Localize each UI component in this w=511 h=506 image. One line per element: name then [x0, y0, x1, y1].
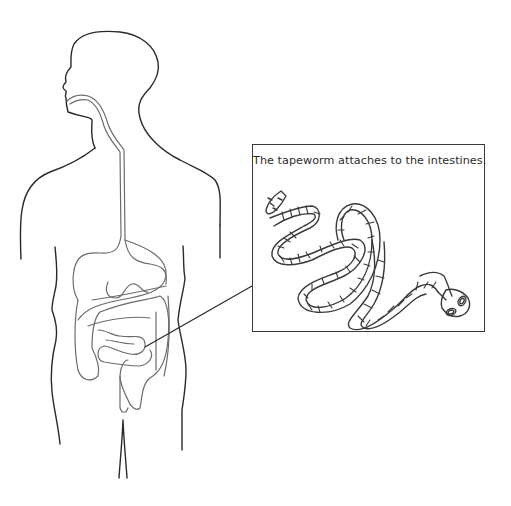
small-intestine — [98, 330, 152, 366]
left-torso-outline — [51, 247, 60, 444]
leg-divide — [119, 420, 127, 478]
pointer-line — [145, 286, 252, 347]
diagram-figure: The tapeworm attaches to the intestines. — [0, 0, 511, 506]
body-outline — [20, 31, 220, 478]
head-outline — [63, 31, 220, 225]
right-torso-outline — [178, 246, 186, 450]
large-intestine — [75, 296, 169, 409]
callout-caption: The tapeworm attaches to the intestines. — [253, 154, 484, 167]
left-shoulder-outline — [20, 148, 95, 259]
callout-box: The tapeworm attaches to the intestines. — [252, 144, 485, 332]
digestive-tract — [67, 95, 169, 412]
stomach — [73, 240, 166, 320]
